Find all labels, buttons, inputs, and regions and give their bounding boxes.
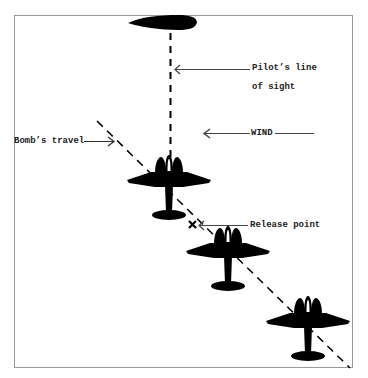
bombs-travel-label: Bomb’s travel [14, 137, 84, 146]
wind-label: WIND [251, 129, 273, 138]
sight-line-label-1: Pilot’s line [252, 64, 317, 73]
release-point-label: Release point [250, 221, 320, 230]
release-marker-icon [189, 221, 196, 228]
sight-line-label-2: of sight [252, 83, 295, 92]
top-aircraft-icon [128, 15, 197, 30]
bomb-release-diagram [0, 0, 368, 378]
plane-2-icon [186, 226, 270, 291]
plane-3-icon [266, 296, 350, 361]
plane-1-icon [127, 155, 211, 220]
